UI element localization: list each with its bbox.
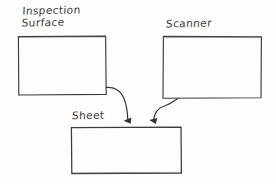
node-label-inspection-surface: Inspection Surface <box>21 5 80 29</box>
node-label-sheet: Sheet <box>72 111 105 123</box>
node-inspection-surface-box[interactable] <box>18 36 106 95</box>
node-sheet-box[interactable] <box>71 127 181 173</box>
diagram-canvas: Inspection Surface Scanner Sheet <box>0 0 276 184</box>
edge-inspection-surface-to-sheet[interactable] <box>106 87 127 120</box>
edge-scanner-to-sheet[interactable] <box>153 99 177 121</box>
node-label-scanner: Scanner <box>166 19 212 31</box>
node-scanner-box[interactable] <box>163 36 261 98</box>
